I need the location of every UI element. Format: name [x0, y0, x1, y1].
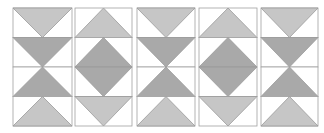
block-column-3	[137, 8, 195, 126]
block-column-4	[199, 8, 257, 126]
block-column-1	[13, 8, 72, 126]
block-column-2	[75, 8, 132, 126]
quilt-diagram	[0, 0, 324, 133]
block-column-5	[261, 8, 318, 126]
